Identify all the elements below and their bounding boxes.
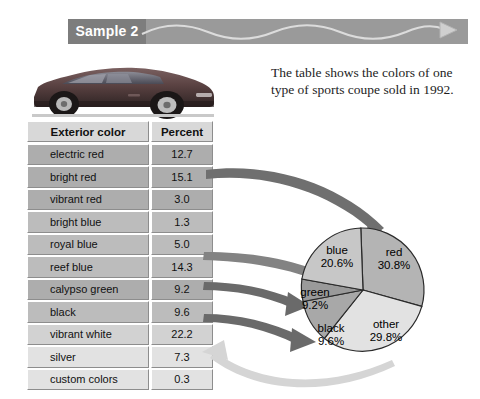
pie-chart: red 30.8% blue 20.6% green 9.2% black 9.…	[300, 228, 424, 351]
table-row: bright red 15.1	[27, 166, 213, 188]
cell-percent: 3.0	[151, 189, 213, 211]
column-header-percent: Percent	[151, 121, 213, 142]
cell-percent: 14.3	[151, 256, 213, 278]
pie-label-other-value: 29.8%	[370, 331, 403, 343]
table-header-row: Exterior color Percent	[27, 121, 213, 143]
pie-slice-black	[303, 290, 363, 338]
pie-label-red-name: red	[386, 246, 403, 258]
pie-slice-other	[324, 290, 421, 351]
exterior-color-table: Exterior color Percent electric red 12.7…	[27, 121, 213, 391]
cell-color: calypso green	[27, 279, 149, 301]
table-row: reef blue 14.3	[27, 256, 213, 278]
table-row: vibrant red 3.0	[27, 189, 213, 211]
pie-slice-green	[301, 279, 363, 302]
cell-percent: 15.1	[151, 166, 213, 188]
cell-color: royal blue	[27, 234, 149, 256]
arrow-to-black	[203, 314, 316, 352]
cell-percent: 7.3	[151, 346, 213, 368]
cell-color: vibrant red	[27, 189, 149, 211]
table-row: electric red 12.7	[27, 144, 213, 166]
arrow-to-blue	[203, 252, 344, 290]
cell-color: custom colors	[27, 369, 149, 391]
arrow-to-green	[203, 282, 310, 316]
cell-percent: 1.3	[151, 211, 213, 233]
pie-label-green-value: 9.2%	[302, 299, 328, 311]
pie-label-other-name: other	[373, 318, 399, 330]
column-header-color: Exterior color	[27, 121, 149, 142]
cell-color: bright red	[27, 166, 149, 188]
banner: Sample 2	[68, 19, 468, 44]
cell-color: electric red	[27, 144, 149, 166]
table-row: calypso green 9.2	[27, 279, 213, 301]
pie-label-green-name: green	[300, 286, 329, 298]
cell-percent: 22.2	[151, 324, 213, 346]
pie-label-black-name: black	[318, 322, 345, 334]
cell-color: vibrant white	[27, 324, 149, 346]
table-row: royal blue 5.0	[27, 234, 213, 256]
table-row: vibrant white 22.2	[27, 324, 213, 346]
cell-color: bright blue	[27, 211, 149, 233]
pie-label-blue-name: blue	[326, 244, 348, 256]
pie-slice-blue	[302, 228, 363, 290]
cell-percent: 9.6	[151, 301, 213, 323]
pie-slice-red	[361, 228, 424, 306]
cell-color: black	[27, 301, 149, 323]
table-row: black 9.6	[27, 301, 213, 323]
table-row: bright blue 1.3	[27, 211, 213, 233]
sports-coupe-photo	[28, 57, 218, 119]
cell-color: reef blue	[27, 256, 149, 278]
table-row: silver 7.3	[27, 346, 213, 368]
wavy-arrow-icon	[140, 19, 468, 44]
arrow-to-other	[202, 340, 395, 387]
banner-title: Sample 2	[68, 19, 146, 44]
caption-text: The table shows the colors of one type o…	[271, 64, 476, 98]
cell-percent: 0.3	[151, 369, 213, 391]
pie-label-blue-value: 20.6%	[321, 257, 354, 269]
pie-label-red-value: 30.8%	[378, 259, 411, 271]
cell-color: silver	[27, 346, 149, 368]
cell-percent: 9.2	[151, 279, 213, 301]
table-row: custom colors 0.3	[27, 369, 213, 391]
pie-label-black-value: 9.6%	[318, 335, 344, 347]
cell-percent: 12.7	[151, 144, 213, 166]
worksheet-page: Sample 2	[0, 0, 480, 399]
arrow-to-red	[206, 168, 392, 246]
cell-percent: 5.0	[151, 234, 213, 256]
